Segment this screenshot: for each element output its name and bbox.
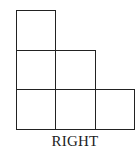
- grid-cell-r3-c1: [16, 89, 56, 130]
- grid-cell-r3-c2: [55, 89, 96, 130]
- grid-cell-r2-c2: [55, 50, 96, 90]
- grid-cell-r3-c3: [95, 89, 135, 130]
- view-label: RIGHT: [0, 133, 138, 149]
- grid-cell-r1-c1: [16, 10, 56, 51]
- grid-cell-r2-c1: [16, 50, 56, 90]
